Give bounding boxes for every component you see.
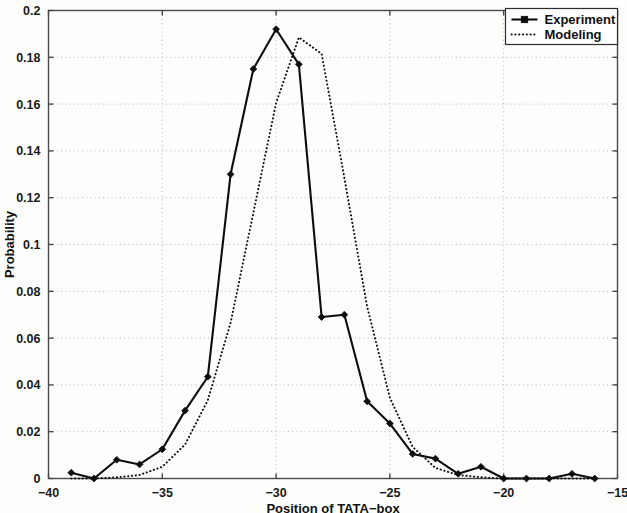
y-axis-tick-labels: 00.020.040.060.080.10.120.140.160.180.2 — [16, 4, 40, 486]
legend-label-modeling: Modeling — [545, 27, 602, 42]
data-point-marker — [318, 314, 325, 321]
figure-container: −40−35−30−25−20−15 00.020.040.060.080.10… — [0, 0, 627, 513]
data-point-marker — [591, 475, 598, 482]
y-tick-label: 0.1 — [23, 238, 40, 252]
x-tick-label: −15 — [607, 486, 627, 500]
y-tick-label: 0.12 — [16, 191, 40, 205]
data-point-marker — [523, 475, 530, 482]
y-tick-label: 0 — [34, 472, 41, 486]
gridlines-group — [49, 11, 618, 479]
data-point-marker — [341, 311, 348, 318]
x-tick-label: −30 — [265, 486, 286, 500]
x-tick-label: −25 — [379, 486, 400, 500]
y-tick-label: 0.04 — [16, 378, 40, 392]
y-tick-label: 0.06 — [16, 332, 40, 346]
x-axis-tick-labels: −40−35−30−25−20−15 — [38, 486, 627, 500]
data-markers-group — [68, 26, 598, 482]
legend: Experiment Modeling — [506, 9, 618, 45]
legend-marker-experiment — [521, 16, 527, 22]
data-point-marker — [227, 171, 234, 178]
y-tick-label: 0.02 — [16, 425, 40, 439]
x-tick-label: −20 — [493, 486, 514, 500]
data-point-marker — [68, 469, 75, 476]
series-line-experiment — [71, 29, 594, 478]
data-point-marker — [546, 475, 553, 482]
y-axis-title: Probability — [2, 210, 17, 278]
probability-vs-tata-box-position-chart: −40−35−30−25−20−15 00.020.040.060.080.10… — [0, 0, 627, 513]
data-series-group — [71, 29, 594, 478]
y-tick-label: 0.08 — [16, 285, 40, 299]
legend-label-experiment: Experiment — [545, 12, 616, 27]
y-tick-label: 0.2 — [23, 4, 40, 18]
x-tick-label: −40 — [38, 486, 59, 500]
series-line-modeling — [71, 37, 594, 478]
x-axis-title: Position of TATA−box — [266, 501, 400, 513]
y-tick-label: 0.14 — [16, 144, 40, 158]
x-tick-label: −35 — [152, 486, 173, 500]
y-tick-label: 0.16 — [16, 98, 40, 112]
data-point-marker — [569, 470, 576, 477]
y-tick-label: 0.18 — [16, 51, 40, 65]
